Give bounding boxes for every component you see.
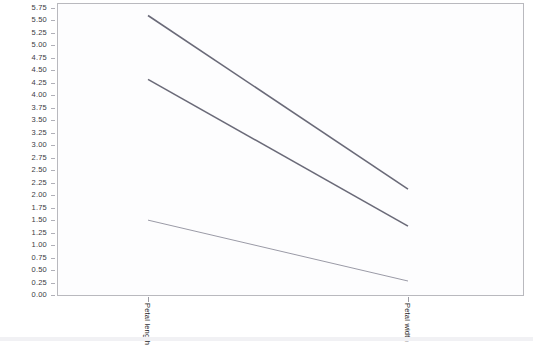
y-axis-tick-label: 3.25 bbox=[32, 128, 47, 138]
x-axis-tick-mark bbox=[148, 297, 149, 302]
y-axis-tick-mark bbox=[51, 258, 55, 259]
y-axis-tick-mark bbox=[51, 70, 55, 71]
y-axis-tick-label: 0.75 bbox=[32, 253, 47, 263]
y-axis-tick-label: 2.75 bbox=[32, 153, 47, 163]
y-axis-tick-mark bbox=[51, 108, 55, 109]
y-axis-tick-label: 4.25 bbox=[32, 78, 47, 88]
y-axis-tick-mark bbox=[51, 208, 55, 209]
y-axis-tick-mark bbox=[51, 83, 55, 84]
y-axis-tick-label: 2.50 bbox=[32, 165, 47, 175]
series-line bbox=[148, 15, 408, 189]
series-lines bbox=[58, 4, 523, 295]
y-axis-tick-label: 2.00 bbox=[32, 190, 47, 200]
y-axis-tick-mark bbox=[51, 133, 55, 134]
y-axis-tick-mark bbox=[51, 145, 55, 146]
x-axis-tick-mark bbox=[408, 297, 409, 302]
y-axis-tick-label: 3.50 bbox=[32, 115, 47, 125]
parallel-coordinates-chart: 5.755.505.255.004.754.504.254.003.753.50… bbox=[0, 0, 533, 349]
y-axis-tick-label: 2.25 bbox=[32, 178, 47, 188]
plot-area bbox=[57, 3, 524, 296]
y-axis-tick-label: 4.75 bbox=[32, 53, 47, 63]
y-axis-tick-mark bbox=[51, 183, 55, 184]
y-axis-tick-label: 3.00 bbox=[32, 140, 47, 150]
y-axis-tick-label: 0.25 bbox=[32, 278, 47, 288]
y-axis-tick-label: 1.50 bbox=[32, 215, 47, 225]
y-axis-tick-label: 5.00 bbox=[32, 40, 47, 50]
y-axis-tick-label: 4.00 bbox=[32, 90, 47, 100]
y-axis-tick-mark bbox=[51, 20, 55, 21]
y-axis-tick-mark bbox=[51, 195, 55, 196]
y-axis-tick-label: 1.00 bbox=[32, 240, 47, 250]
y-axis-tick-mark bbox=[51, 245, 55, 246]
y-axis-tick-mark bbox=[51, 45, 55, 46]
y-axis-tick-mark bbox=[51, 270, 55, 271]
y-axis-tick-label: 0.50 bbox=[32, 265, 47, 275]
y-axis-tick-label: 3.75 bbox=[32, 103, 47, 113]
y-axis-tick-mark bbox=[51, 95, 55, 96]
y-axis-tick-mark bbox=[51, 220, 55, 221]
plot-inner bbox=[58, 4, 523, 295]
y-axis-tick-mark bbox=[51, 158, 55, 159]
series-line bbox=[148, 220, 408, 281]
y-axis-tick-mark bbox=[51, 295, 55, 296]
y-axis-tick-label: 0.00 bbox=[32, 290, 47, 300]
y-axis-tick-label: 5.75 bbox=[32, 3, 47, 13]
bottom-status-band bbox=[0, 337, 533, 341]
y-axis-tick-mark bbox=[51, 170, 55, 171]
y-axis-tick-mark bbox=[51, 33, 55, 34]
y-axis: 5.755.505.255.004.754.504.254.003.753.50… bbox=[0, 0, 57, 299]
y-axis-tick-mark bbox=[51, 283, 55, 284]
y-axis-tick-mark bbox=[51, 58, 55, 59]
y-axis-tick-label: 1.25 bbox=[32, 228, 47, 238]
y-axis-tick-mark bbox=[51, 120, 55, 121]
y-axis-tick-label: 1.75 bbox=[32, 203, 47, 213]
y-axis-tick-label: 4.50 bbox=[32, 65, 47, 75]
y-axis-tick-mark bbox=[51, 233, 55, 234]
y-axis-tick-label: 5.50 bbox=[32, 15, 47, 25]
y-axis-tick-mark bbox=[51, 8, 55, 9]
y-axis-tick-label: 5.25 bbox=[32, 28, 47, 38]
